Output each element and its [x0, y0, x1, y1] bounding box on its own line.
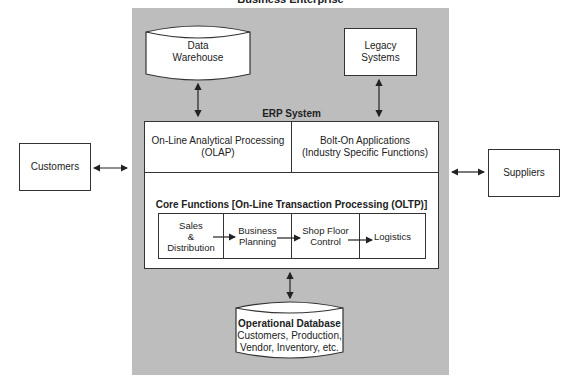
opdb-line2: Vendor, Inventory, etc.	[236, 342, 343, 354]
opdb-line1: Customers, Production,	[236, 330, 343, 342]
suppliers-box: Suppliers	[488, 149, 560, 197]
customers-box: Customers	[19, 143, 91, 191]
opdb-title: Operational Database	[236, 318, 343, 330]
operational-database-label: Operational Database Customers, Producti…	[236, 318, 343, 354]
